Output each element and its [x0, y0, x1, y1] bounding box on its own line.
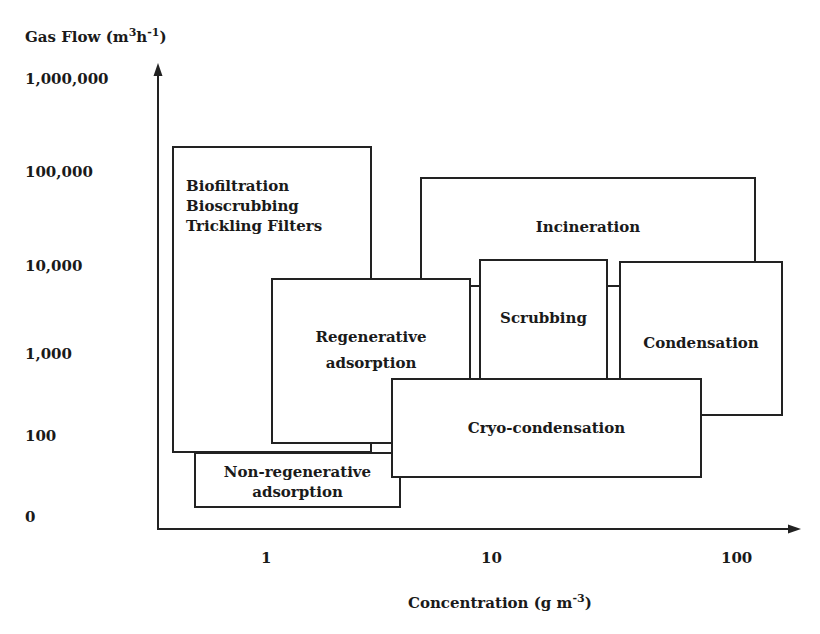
label-biofiltration: Biofiltration [186, 176, 289, 196]
label-non-regenerative: Non-regenerative [224, 462, 371, 482]
box-non-regenerative-adsorption: Non-regenerative adsorption [194, 452, 401, 508]
x-tick-1: 1 [261, 549, 271, 567]
label-regenerative: Regenerative [316, 327, 427, 347]
label-regenerative-adsorption: adsorption [326, 353, 417, 373]
x-axis-title-text: Concentration (g m [408, 594, 572, 612]
box-scrubbing: Scrubbing [479, 259, 608, 381]
label-scrubbing: Scrubbing [500, 308, 587, 328]
box-cryo-condensation: Cryo-condensation [391, 378, 702, 478]
label-condensation: Condensation [643, 333, 759, 353]
label-cryo-condensation: Cryo-condensation [468, 418, 625, 438]
label-trickling-filters: Trickling Filters [186, 216, 322, 236]
x-axis-sup: -3 [572, 592, 584, 605]
x-axis-title-end: ) [585, 594, 592, 612]
label-bioscrubbing: Bioscrubbing [186, 196, 299, 216]
x-tick-100: 100 [721, 549, 752, 567]
label-non-regenerative-adsorption: adsorption [252, 482, 343, 502]
label-incineration: Incineration [536, 217, 640, 237]
x-tick-10: 10 [481, 549, 502, 567]
x-axis-title: Concentration (g m-3) [408, 592, 592, 612]
